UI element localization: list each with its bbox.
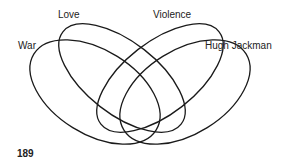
page-number: 189 xyxy=(17,148,34,159)
label-love: Love xyxy=(58,9,80,20)
label-war: War xyxy=(18,40,36,51)
venn-diagram xyxy=(0,0,290,166)
label-violence: Violence xyxy=(153,9,191,20)
ellipse-love xyxy=(41,3,204,152)
label-hugh-jackman: Hugh Jackman xyxy=(205,40,272,51)
ellipse-violence xyxy=(79,3,242,152)
